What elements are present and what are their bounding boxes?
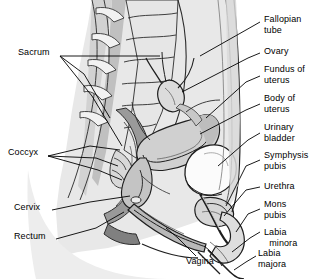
- label-symphysis-pubis: Symphysispubis: [264, 150, 308, 171]
- label-body-of-uterus: Body ofuterus: [264, 93, 295, 114]
- label-cervix: Cervix: [14, 202, 40, 213]
- label-fundus-of-uterus: Fundus ofuterus: [264, 64, 305, 85]
- label-urinary-bladder: Urinarybladder: [264, 122, 295, 143]
- label-vagina: Vagina: [186, 256, 214, 267]
- label-urethra: Urethra: [264, 181, 295, 192]
- label-ovary: Ovary: [264, 46, 289, 57]
- label-labia-majora: Labiamajora: [258, 248, 286, 269]
- label-rectum: Rectum: [14, 231, 46, 242]
- label-labia-minora: Labia minora: [264, 227, 297, 248]
- label-fallopian-tube: Fallopiantube: [264, 14, 301, 35]
- label-coccyx: Coccyx: [8, 147, 38, 158]
- label-mons-pubis: Monspubis: [264, 199, 286, 220]
- anatomical-figure: Sacrum Coccyx Cervix Rectum Vagina Fallo…: [0, 0, 322, 279]
- label-sacrum: Sacrum: [18, 47, 50, 58]
